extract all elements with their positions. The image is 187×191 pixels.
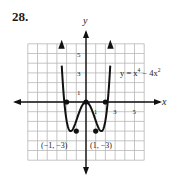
point-label-min-left: (−1, −3) <box>41 141 68 150</box>
data-point <box>103 99 108 104</box>
equation-label: y = x4 − 4x2 <box>120 67 161 78</box>
data-point <box>83 99 88 104</box>
curve-right-arrow-icon <box>107 40 114 49</box>
x-axis-label: x <box>161 96 167 107</box>
y-tick-label: 1 <box>77 89 81 97</box>
x-axis-left-arrow-icon <box>13 99 21 105</box>
y-axis-down-arrow-icon <box>83 167 89 175</box>
x-axis-right-arrow-icon <box>154 99 162 105</box>
function-graph: yx135135y = x4 − 4x2(−1, −3)(1, −3) <box>0 0 187 191</box>
x-tick-label: 3 <box>113 108 117 116</box>
data-point <box>64 99 69 104</box>
data-point <box>74 129 79 134</box>
curve-left-arrow-icon <box>58 40 65 49</box>
y-axis-up-arrow-icon <box>83 30 89 38</box>
point-label-min-right: (1, −3) <box>90 141 112 150</box>
x-tick-label: 5 <box>133 108 137 116</box>
y-tick-label: 3 <box>77 70 81 78</box>
x-tick-label: 1 <box>94 108 98 116</box>
y-axis-label: y <box>82 15 88 26</box>
data-point <box>93 129 98 134</box>
y-tick-label: 5 <box>77 51 81 59</box>
